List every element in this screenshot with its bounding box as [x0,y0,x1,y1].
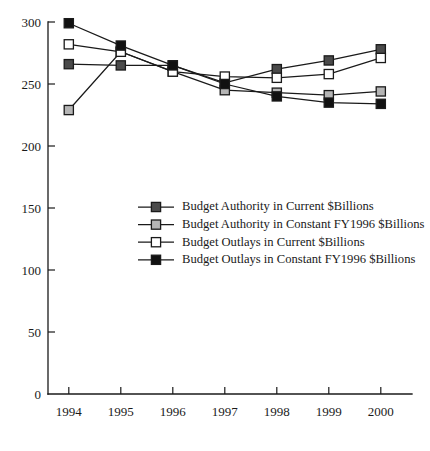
x-tick-label: 1999 [316,404,342,419]
y-axis: 050100150200250300 [22,15,56,402]
legend-marker [151,255,160,264]
x-tick-label: 1996 [160,404,187,419]
y-tick-label: 150 [22,201,42,216]
legend-label: Budget Authority in Current $Billions [182,199,374,213]
y-tick-label: 200 [22,139,42,154]
data-point-marker [220,79,229,88]
legend-item-2: Budget Authority in Constant FY1996 $Bil… [138,217,425,231]
x-axis: 1994199519961997199819992000 [48,387,412,419]
legend-marker [151,202,160,211]
data-point-marker [64,40,73,49]
x-tick-label: 1994 [56,404,83,419]
x-tick-label: 2000 [368,404,394,419]
data-point-marker [64,105,73,114]
y-tick-label: 100 [22,263,42,278]
chart-container: 050100150200250300 199419951996199719981… [0,0,430,451]
data-point-marker [376,87,385,96]
data-point-marker [272,92,281,101]
legend-label: Budget Outlays in Constant FY1996 $Billi… [182,252,415,266]
data-point-marker [168,61,177,70]
data-series-layer [64,19,385,115]
x-tick-label: 1998 [264,404,290,419]
data-point-marker [376,45,385,54]
y-tick-label: 50 [28,325,41,340]
y-tick-label: 300 [22,15,42,30]
chart-legend: Budget Authority in Current $BillionsBud… [138,199,425,266]
y-tick-label: 0 [35,387,42,402]
x-axis-ticks: 1994199519961997199819992000 [56,387,394,419]
data-point-marker [324,56,333,65]
data-point-marker [64,60,73,69]
legend-label: Budget Outlays in Current $Billions [182,235,365,249]
data-point-marker [272,73,281,82]
data-point-marker [116,41,125,50]
data-point-marker [376,99,385,108]
data-point-marker [272,65,281,74]
data-point-marker [64,19,73,28]
legend-marker [151,238,160,247]
legend-item-1: Budget Authority in Current $Billions [138,199,374,213]
x-tick-label: 1997 [212,404,239,419]
legend-item-3: Budget Outlays in Current $Billions [138,235,365,249]
legend-item-4: Budget Outlays in Constant FY1996 $Billi… [138,252,415,266]
data-point-marker [324,69,333,78]
y-axis-ticks: 050100150200250300 [22,15,56,402]
line-chart: 050100150200250300 199419951996199719981… [0,0,430,451]
legend-label: Budget Authority in Constant FY1996 $Bil… [182,217,425,231]
x-tick-label: 1995 [108,404,134,419]
data-point-marker [324,98,333,107]
y-tick-label: 250 [22,77,42,92]
data-point-marker [376,53,385,62]
data-point-marker [116,61,125,70]
legend-marker [151,220,160,229]
